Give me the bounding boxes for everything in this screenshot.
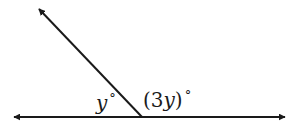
angle-label-y-variable: y <box>96 91 107 115</box>
diagram-svg <box>0 0 302 137</box>
angle-label-3y-variable: y <box>164 88 175 112</box>
angle-label-3y-suffix: ) <box>175 88 183 112</box>
degree-symbol: ° <box>109 91 116 106</box>
angle-diagram: y° (3y)° <box>0 0 302 137</box>
angle-label-3y: (3y)° <box>143 90 191 110</box>
degree-symbol: ° <box>185 88 192 103</box>
angle-label-y: y° <box>96 93 116 113</box>
angle-label-3y-prefix: (3 <box>143 88 164 112</box>
ray-line <box>39 9 142 117</box>
